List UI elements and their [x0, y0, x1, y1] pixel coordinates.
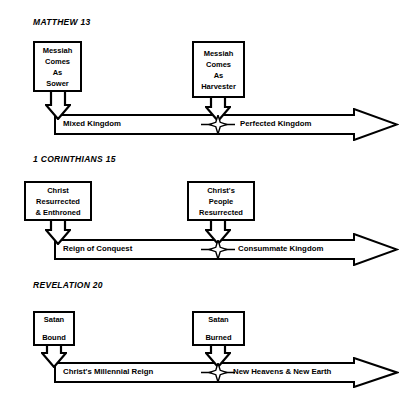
event-box-line: Satan: [208, 311, 228, 329]
event-box-line: Sower: [46, 78, 69, 89]
midpoint-star-icon-matthew-13: [201, 115, 235, 134]
event-box-messiah-comes-as-sower: Messiah Comes As Sower: [33, 41, 82, 92]
section-heading-revelation-20: REVELATION 20: [33, 280, 103, 290]
event-box-line: & Enthroned: [36, 207, 81, 218]
event-box-satan-bound: Satan Bound: [33, 311, 75, 346]
timeline-label-christs-millennial-reign: Christ's Millennial Reign: [63, 367, 153, 377]
event-box-line: Resurrected: [199, 207, 243, 218]
event-box-line: Satan: [44, 311, 64, 329]
midpoint-star-icon-1-corinthians-15: [201, 240, 235, 259]
event-box-line: Burned: [205, 329, 231, 347]
event-box-line: Christ: [47, 185, 69, 196]
event-box-line: Harvester: [201, 81, 236, 92]
event-box-line: Comes: [206, 59, 231, 70]
timeline-label-perfected-kingdom: Perfected Kingdom: [240, 119, 311, 129]
section-heading-1-corinthians-15: 1 CORINTHIANS 15: [33, 154, 116, 164]
event-box-christs-people-resurrected: Christ's People Resurrected: [187, 181, 255, 221]
event-box-line: Messiah: [204, 48, 234, 59]
event-box-line: As: [53, 67, 63, 78]
event-box-christ-resurrected-and-enthroned: Christ Resurrected & Enthroned: [24, 181, 92, 221]
event-box-satan-burned: Satan Burned: [192, 311, 245, 346]
midpoint-star-icon-revelation-20: [201, 363, 235, 382]
event-box-messiah-comes-as-harvester: Messiah Comes As Harvester: [192, 41, 245, 98]
timeline-label-mixed-kingdom: Mixed Kingdom: [63, 119, 121, 129]
event-box-line: Resurrected: [36, 196, 80, 207]
timeline-label-consummate-kingdom: Consummate Kingdom: [238, 244, 323, 254]
down-arrow-connector-sower: [45, 88, 71, 120]
event-box-line: Christ's: [207, 185, 235, 196]
timeline-label-new-heavens-and-new-earth: New Heavens & New Earth: [233, 367, 331, 377]
event-box-line: Bound: [42, 329, 66, 347]
event-box-line: As: [214, 70, 224, 81]
event-box-line: Comes: [45, 56, 70, 67]
down-arrow-connector-christ-resurrected: [45, 217, 71, 245]
timeline-label-reign-of-conquest: Reign of Conquest: [63, 244, 132, 254]
event-box-line: Messiah: [43, 45, 73, 56]
section-heading-matthew-13: MATTHEW 13: [33, 17, 91, 27]
event-box-line: People: [209, 196, 234, 207]
eschatology-timeline-diagram: MATTHEW 13 Messiah Comes As Sower Messia…: [0, 0, 413, 401]
